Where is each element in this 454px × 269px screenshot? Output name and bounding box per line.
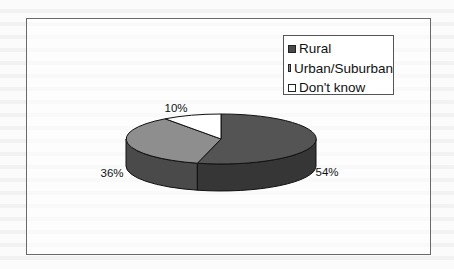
- legend-swatch-urban: [288, 64, 291, 72]
- legend-item-dont-know: Don't know: [288, 78, 393, 98]
- legend-swatch-dont-know: [288, 84, 296, 92]
- legend-label: Rural: [299, 41, 331, 56]
- legend-item-urban: Urban/Suburban: [288, 59, 393, 79]
- label-urban-pct: 36%: [100, 167, 123, 179]
- label-rural-pct: 54%: [315, 166, 338, 178]
- legend-label: Don't know: [299, 80, 365, 95]
- legend-swatch-rural: [288, 45, 296, 53]
- chart-legend: Rural Urban/Suburban Don't know: [283, 35, 394, 95]
- label-dont-know-pct: 10%: [164, 102, 187, 114]
- legend-label: Urban/Suburban: [294, 61, 393, 76]
- legend-item-rural: Rural: [288, 39, 393, 59]
